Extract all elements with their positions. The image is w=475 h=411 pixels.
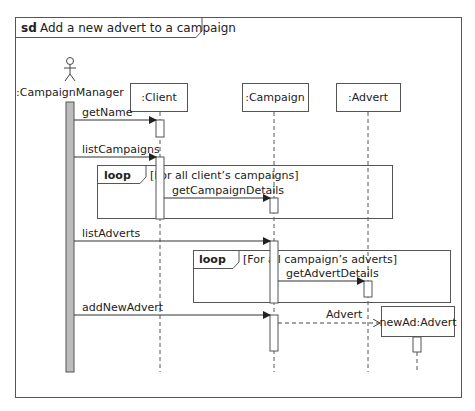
svg-text:getCampaignDetails: getCampaignDetails: [172, 184, 284, 197]
message-create-advert: Advert: [278, 308, 380, 323]
stick-figure-icon: [64, 58, 76, 82]
campaign-activation-listadverts: [270, 241, 278, 303]
diagram-frame: [16, 18, 462, 398]
diagram-title: Add a new advert to a campaign: [40, 21, 236, 35]
frame-kind-keyword: sd: [21, 21, 37, 35]
message-getcampaigndetails: getCampaignDetails: [164, 184, 284, 198]
svg-text:Advert: Advert: [326, 308, 363, 321]
svg-text::Advert: :Advert: [348, 91, 389, 104]
message-addnewadvert: addNewAdvert: [74, 301, 270, 315]
svg-text:addNewAdvert: addNewAdvert: [82, 301, 164, 314]
svg-text:[For all campaign’s adverts]: [For all campaign’s adverts]: [243, 253, 397, 266]
advert-activation-details: [364, 281, 372, 297]
actor-label: :CampaignManager: [16, 86, 124, 99]
message-listcampaigns: listCampaigns: [74, 143, 160, 157]
sequence-diagram: sd Add a new advert to a campaign :Campa…: [0, 0, 475, 411]
lifeline-newad: newAd:Advert: [379, 307, 457, 373]
svg-text:getAdvertDetails: getAdvertDetails: [286, 267, 379, 280]
svg-text:[For all client’s campaigns]: [For all client’s campaigns]: [150, 169, 299, 182]
svg-text::Client: :Client: [141, 91, 177, 104]
message-listadverts: listAdverts: [74, 227, 270, 241]
campaign-activation-addnewadvert: [270, 315, 278, 351]
svg-text:newAd:Advert: newAd:Advert: [379, 316, 457, 329]
actor-activation-bar: [66, 102, 74, 372]
client-activation-listcampaigns: [156, 157, 164, 219]
client-activation-getname: [156, 120, 164, 137]
message-getadvertdetails: getAdvertDetails: [278, 267, 379, 281]
svg-text::Campaign: :Campaign: [245, 91, 305, 104]
svg-text:loop: loop: [199, 253, 226, 266]
campaign-activation-details: [270, 198, 278, 213]
svg-text:getName: getName: [82, 106, 133, 119]
svg-text:listAdverts: listAdverts: [82, 227, 141, 240]
svg-text:loop: loop: [104, 169, 131, 182]
svg-text:listCampaigns: listCampaigns: [82, 143, 160, 156]
